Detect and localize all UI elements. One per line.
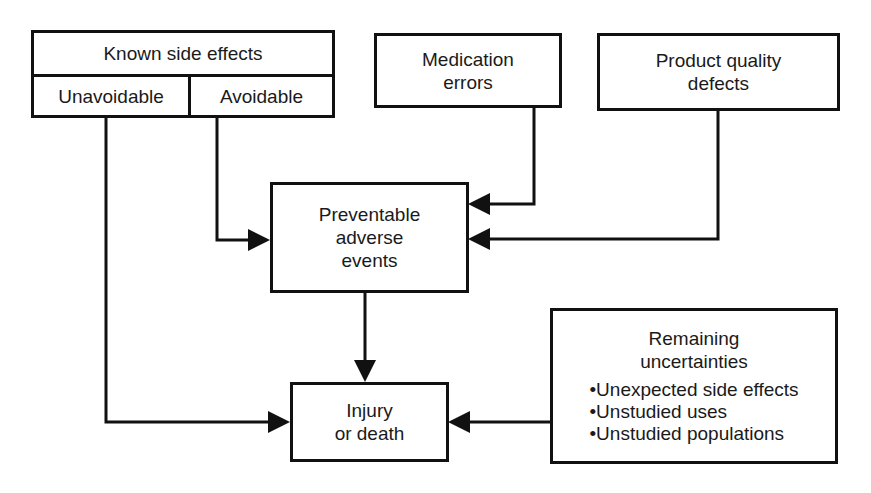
- edge-product-to-preventable: [488, 110, 718, 239]
- remaining-line2: uncertainties: [640, 350, 748, 373]
- unavoidable-cell: Unavoidable: [34, 77, 191, 115]
- product-quality-defects-box: Product quality defects: [597, 33, 840, 111]
- edge-unavoidable-to-injury: [106, 117, 272, 422]
- arrowhead-icon: [354, 360, 376, 382]
- preventable-line2: adverse: [336, 226, 404, 249]
- preventable-adverse-events-box: Preventable adverse events: [270, 182, 469, 293]
- list-item: Unexpected side effects: [589, 379, 798, 401]
- medication-errors-box: Medication errors: [374, 33, 562, 108]
- arrowhead-icon: [468, 228, 490, 250]
- injury-or-death-box: Injury or death: [290, 382, 449, 462]
- preventable-line3: events: [342, 249, 398, 272]
- edge-avoidable-to-preventable: [217, 117, 252, 240]
- product-quality-line1: Product quality: [656, 49, 782, 72]
- medication-errors-line2: errors: [443, 71, 493, 94]
- avoidable-cell: Avoidable: [191, 77, 332, 115]
- remaining-uncertainties-list: Unexpected side effects Unstudied uses U…: [589, 379, 798, 445]
- list-item: Unstudied uses: [589, 401, 798, 423]
- arrowhead-icon: [248, 229, 270, 251]
- remaining-uncertainties-box: Remaining uncertainties Unexpected side …: [550, 308, 838, 464]
- injury-line2: or death: [335, 422, 405, 445]
- preventable-line1: Preventable: [319, 203, 420, 226]
- known-side-effects-box: Known side effects Unavoidable Avoidable: [31, 30, 335, 118]
- edge-medication-to-preventable: [488, 107, 534, 204]
- known-side-effects-title: Known side effects: [34, 33, 332, 77]
- arrowhead-icon: [468, 193, 490, 215]
- injury-line1: Injury: [346, 399, 392, 422]
- remaining-line1: Remaining: [649, 327, 740, 350]
- arrowhead-icon: [268, 411, 290, 433]
- medication-errors-line1: Medication: [422, 48, 514, 71]
- list-item: Unstudied populations: [589, 423, 798, 445]
- product-quality-line2: defects: [688, 72, 749, 95]
- arrowhead-icon: [448, 411, 470, 433]
